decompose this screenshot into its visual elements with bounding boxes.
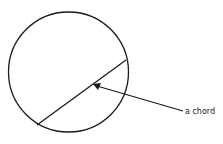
chord-line	[37, 60, 126, 125]
arrow-shaft	[97, 86, 183, 111]
circle-chord-diagram	[0, 0, 223, 144]
chord-label: a chord	[185, 107, 215, 116]
